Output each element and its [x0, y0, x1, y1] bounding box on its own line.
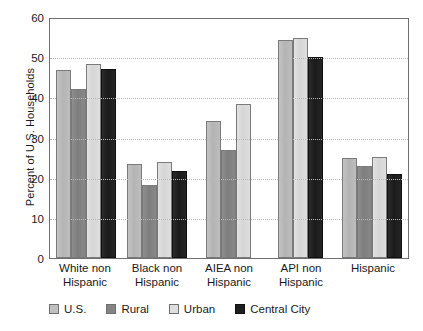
- bar-2-2: [236, 104, 251, 258]
- gridline-40: [50, 98, 408, 99]
- x-tick-line: Hispanic: [265, 276, 337, 290]
- y-tick-40: 40: [14, 92, 44, 104]
- bar-2-0: [206, 121, 221, 258]
- bar-4-0: [342, 158, 357, 258]
- legend-label: Rural: [121, 303, 148, 315]
- gridline-50: [50, 58, 408, 59]
- legend-item-3[interactable]: Central City: [235, 303, 310, 315]
- bar-chart: Percent of U.S. Households 0102030405060…: [0, 0, 423, 331]
- x-tick-line: Hispanic: [121, 276, 193, 290]
- x-tick-line: API non: [265, 262, 337, 276]
- y-tick-0: 0: [14, 253, 44, 265]
- x-axis-tick-labels: White nonHispanicBlack nonHispanicAIEA n…: [49, 262, 409, 289]
- bar-0-2: [86, 64, 101, 258]
- legend-label: U.S.: [64, 303, 86, 315]
- x-tick-line: Hispanic: [337, 262, 409, 276]
- chart-legend: U.S.RuralUrbanCentral City: [49, 303, 409, 315]
- bar-3-3: [308, 57, 323, 258]
- y-tick-50: 50: [14, 52, 44, 64]
- bar-3-2: [293, 38, 308, 258]
- bar-4-3: [387, 174, 402, 258]
- legend-label: Urban: [184, 303, 215, 315]
- x-tick-0: White nonHispanic: [49, 262, 121, 289]
- y-tick-30: 30: [14, 133, 44, 145]
- x-tick-1: Black nonHispanic: [121, 262, 193, 289]
- y-tick-20: 20: [14, 173, 44, 185]
- plot-area: [49, 18, 409, 259]
- x-tick-2: AIEA nonHispanic: [193, 262, 265, 289]
- bar-4-2: [372, 157, 387, 258]
- legend-swatch-icon: [106, 304, 116, 314]
- legend-swatch-icon: [169, 304, 179, 314]
- x-tick-line: Hispanic: [193, 276, 265, 290]
- gridline-30: [50, 139, 408, 140]
- gridline-10: [50, 219, 408, 220]
- bar-1-3: [172, 171, 187, 258]
- x-tick-4: Hispanic: [337, 262, 409, 289]
- x-tick-line: White non: [49, 262, 121, 276]
- bar-1-1: [142, 185, 157, 259]
- legend-item-1[interactable]: Rural: [106, 303, 148, 315]
- legend-item-2[interactable]: Urban: [169, 303, 215, 315]
- legend-swatch-icon: [49, 304, 59, 314]
- x-tick-line: Hispanic: [49, 276, 121, 290]
- bar-1-2: [157, 162, 172, 258]
- x-tick-line: AIEA non: [193, 262, 265, 276]
- y-tick-60: 60: [14, 12, 44, 24]
- bar-4-1: [357, 166, 372, 258]
- x-tick-line: Black non: [121, 262, 193, 276]
- x-tick-3: API nonHispanic: [265, 262, 337, 289]
- gridline-20: [50, 179, 408, 180]
- legend-swatch-icon: [235, 304, 245, 314]
- legend-label: Central City: [250, 303, 310, 315]
- legend-item-0[interactable]: U.S.: [49, 303, 86, 315]
- bar-2-1: [221, 150, 236, 258]
- y-tick-10: 10: [14, 213, 44, 225]
- bar-0-1: [71, 89, 86, 258]
- bar-3-0: [278, 40, 293, 258]
